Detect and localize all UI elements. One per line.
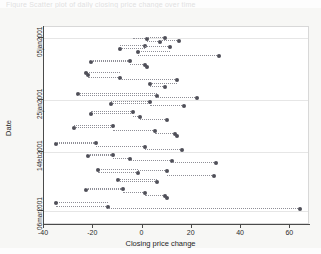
data-point <box>111 124 115 128</box>
spike-connector <box>111 101 150 103</box>
chart-figure: Figure Scatter plot of daily closing pri… <box>0 0 321 254</box>
spike-connector <box>108 208 300 210</box>
y-axis-tick-label: 06mar2001 <box>36 197 43 230</box>
spike-connector <box>88 154 113 156</box>
data-point <box>182 104 186 108</box>
x-axis-tick <box>92 224 93 228</box>
data-point <box>148 100 152 104</box>
spike-connector <box>145 46 170 48</box>
spike-connector <box>74 125 113 127</box>
data-point <box>163 85 167 89</box>
x-axis-tick-label: 20 <box>187 229 195 236</box>
x-axis-title: Closing price change <box>0 239 321 248</box>
x-axis-tick <box>142 224 143 228</box>
grid-line <box>44 152 308 153</box>
y-axis-tick-label: 14feb2001 <box>36 140 43 171</box>
data-point <box>175 78 179 82</box>
scatter-chart: 05jan200125jan200114feb200106mar2001 -40… <box>0 8 321 248</box>
spike-connector <box>123 192 145 194</box>
spike-connector <box>98 169 137 171</box>
data-point <box>136 50 140 54</box>
spike-connector <box>138 51 170 53</box>
spike-connector <box>138 55 219 57</box>
spike-connector <box>86 188 123 190</box>
spike-connector <box>78 95 157 97</box>
plot-area <box>43 26 309 224</box>
y-axis-line <box>43 26 44 225</box>
x-axis-tick-label: 40 <box>236 229 244 236</box>
data-point <box>165 169 169 173</box>
spike-connector <box>88 77 120 79</box>
data-point <box>195 96 199 100</box>
data-point <box>131 110 135 114</box>
data-point <box>180 148 184 152</box>
spike-connector <box>120 48 145 50</box>
data-point <box>145 65 149 69</box>
data-point <box>212 174 216 178</box>
data-point <box>155 180 159 184</box>
data-point <box>165 196 169 200</box>
spike-connector <box>91 113 133 115</box>
spike-connector <box>172 162 216 164</box>
spike-connector <box>96 146 145 148</box>
x-axis-tick-label: 60 <box>285 229 293 236</box>
y-axis-tick-label: 05jan2001 <box>36 27 43 57</box>
spike-connector <box>150 105 184 107</box>
spike-connector <box>74 127 113 129</box>
data-point <box>168 45 172 49</box>
spike-connector <box>145 149 182 151</box>
x-axis-tick <box>240 224 241 228</box>
spike-connector <box>167 175 214 177</box>
x-axis-tick-label: -40 <box>38 229 48 236</box>
spike-connector <box>140 119 167 121</box>
spike-connector <box>118 181 157 183</box>
spike-connector <box>113 130 155 132</box>
data-point <box>128 59 132 63</box>
x-axis-line <box>43 224 310 225</box>
spike-connector <box>138 170 168 172</box>
spike-connector <box>120 45 145 47</box>
x-axis-tick-label: 0 <box>140 229 144 236</box>
data-point <box>111 153 115 157</box>
data-point <box>298 207 302 211</box>
x-axis-tick-label: -20 <box>87 229 97 236</box>
spike-connector <box>98 172 137 174</box>
grid-line <box>44 211 308 212</box>
data-point <box>165 118 169 122</box>
grid-line <box>44 100 308 101</box>
data-point <box>177 39 181 43</box>
data-point <box>217 54 221 58</box>
x-axis-tick <box>289 224 290 228</box>
data-point <box>118 47 122 51</box>
spike-connector <box>56 202 108 204</box>
data-point <box>175 134 179 138</box>
data-point <box>121 187 125 191</box>
spike-connector <box>86 72 120 74</box>
spike-connector <box>130 160 172 162</box>
spike-connector <box>91 111 133 113</box>
x-axis-tick <box>191 224 192 228</box>
y-axis-title: Date <box>4 120 13 136</box>
spike-connector <box>91 60 130 62</box>
y-axis-tick-label: 25jan2001 <box>36 89 43 119</box>
data-point <box>54 201 58 205</box>
plot-inner <box>44 27 308 223</box>
spike-connector <box>120 79 177 81</box>
data-point <box>94 141 98 145</box>
x-axis-tick <box>43 224 44 228</box>
spike-connector <box>157 97 196 99</box>
spike-connector <box>111 103 150 105</box>
spike-connector <box>56 206 108 208</box>
spike-connector <box>56 142 95 144</box>
data-point <box>214 161 218 165</box>
